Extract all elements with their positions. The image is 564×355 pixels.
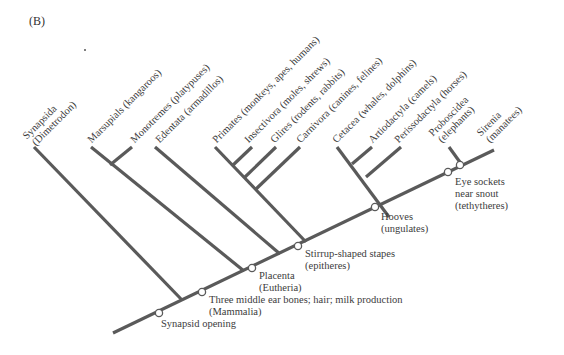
- branch-cetacea: [337, 147, 389, 217]
- branch-monotremes: [110, 147, 132, 165]
- character-label-epitheres: Stirrup-shaped stapes(epitheres): [305, 248, 395, 272]
- node-epitheres: [294, 242, 301, 249]
- phylogenetic-tree-diagram: (B): [0, 0, 564, 355]
- node-synapsid-opening: [155, 309, 162, 316]
- node-tethytheres-a: [444, 168, 451, 175]
- node-ungulates: [371, 203, 378, 210]
- character-label-mammalia: Three middle ear bones; hair; milk produ…: [209, 294, 403, 318]
- character-label-synapsid-opening: Synapsid opening: [161, 318, 236, 330]
- node-tethytheres-b: [456, 161, 463, 168]
- character-label-ungulates: Hooves(ungulates): [381, 211, 428, 235]
- character-label-eutheria: Placenta(Eutheria): [259, 270, 302, 294]
- branch-synapsida: [34, 147, 182, 300]
- branch-marsupials: [91, 147, 244, 271]
- branch-carnivora: [256, 147, 300, 189]
- character-label-tethytheres: Eye socketsnear snout(tethytheres): [455, 176, 508, 212]
- node-eutheria: [248, 264, 255, 271]
- node-mammalia: [198, 288, 205, 295]
- branch-insectivora: [232, 147, 252, 166]
- branch-artiodactyla: [352, 147, 372, 164]
- branch-perissodactyla: [366, 147, 401, 177]
